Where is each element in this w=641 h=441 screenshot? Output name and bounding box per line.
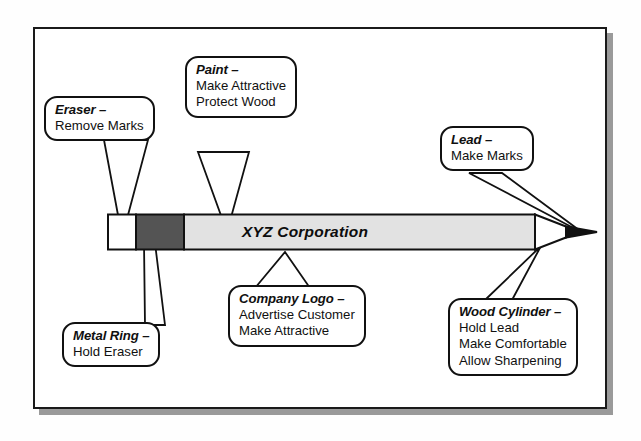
callout-company-logo-line-1: Advertise Customer [239, 307, 355, 323]
callout-metal-ring-line-1: Hold Eraser [73, 344, 149, 360]
callout-wood-cylinder[interactable]: Wood Cylinder – Hold Lead Make Comfortab… [448, 298, 578, 376]
callout-wood-cylinder-line-1: Hold Lead [459, 320, 567, 336]
callout-paint[interactable]: Paint – Make Attractive Protect Wood [185, 56, 297, 118]
callout-paint-heading: Paint – [196, 62, 286, 78]
callout-paint-line-1: Make Attractive [196, 78, 286, 94]
callout-company-logo-heading: Company Logo – [239, 291, 355, 307]
callout-lead-heading: Lead – [451, 132, 523, 148]
callout-company-logo[interactable]: Company Logo – Advertise Customer Make A… [228, 285, 366, 347]
callout-company-logo-line-2: Make Attractive [239, 323, 355, 339]
callout-lead-line-1: Make Marks [451, 148, 523, 164]
callout-eraser-line-1: Remove Marks [55, 118, 144, 134]
callout-eraser[interactable]: Eraser – Remove Marks [44, 96, 155, 141]
callout-lead[interactable]: Lead – Make Marks [440, 126, 534, 171]
callout-wood-cylinder-heading: Wood Cylinder – [459, 304, 567, 320]
callout-eraser-heading: Eraser – [55, 102, 144, 118]
diagram-canvas: XYZ Corporation Eraser – Remove Marks Pa… [0, 0, 641, 441]
callout-wood-cylinder-line-3: Allow Sharpening [459, 353, 567, 369]
callout-paint-line-2: Protect Wood [196, 94, 286, 110]
callout-metal-ring[interactable]: Metal Ring – Hold Eraser [62, 322, 160, 367]
callout-metal-ring-heading: Metal Ring – [73, 328, 149, 344]
pencil-brand-text: XYZ Corporation [242, 223, 368, 241]
callout-wood-cylinder-line-2: Make Comfortable [459, 336, 567, 352]
